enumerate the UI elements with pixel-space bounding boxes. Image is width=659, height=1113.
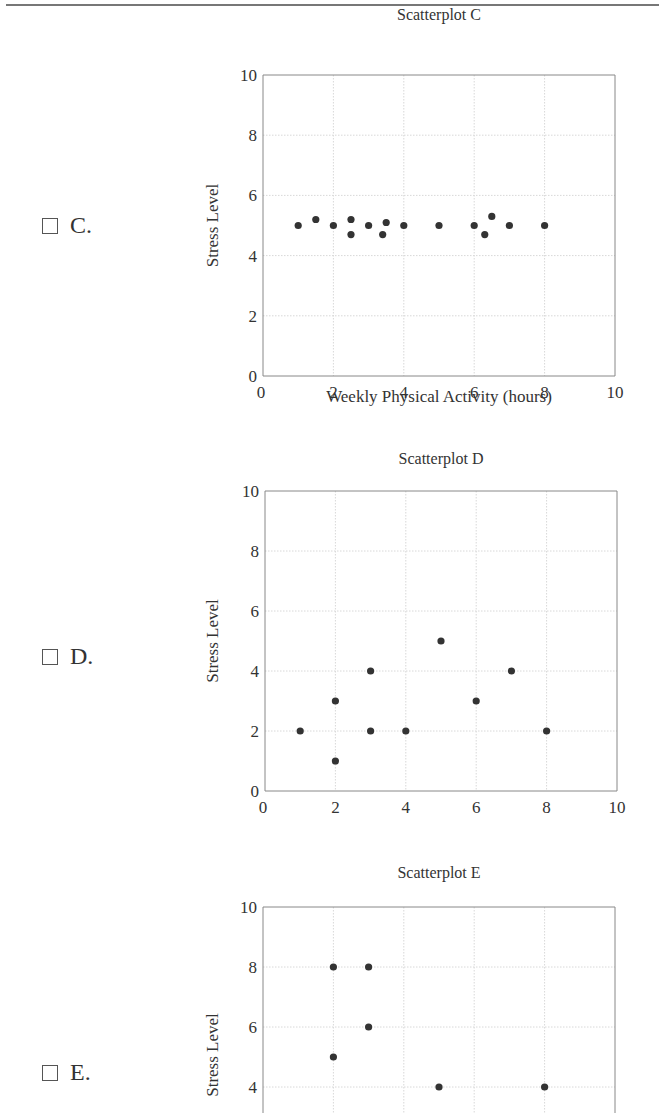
data-point: [541, 1083, 548, 1090]
y-axis-label: Stress Level: [203, 1013, 222, 1097]
data-point: [365, 963, 372, 970]
data-point: [330, 1053, 337, 1060]
data-point: [435, 1083, 442, 1090]
svg-text:10: 10: [240, 898, 257, 917]
svg-text:8: 8: [249, 958, 258, 977]
data-point: [330, 963, 337, 970]
svg-text:4: 4: [249, 1078, 258, 1097]
chart-title: Scatterplot E: [397, 864, 480, 882]
scatterplot-e: Scatterplot E46810Stress Level: [0, 0, 659, 1113]
data-point: [365, 1023, 372, 1030]
svg-text:6: 6: [249, 1018, 258, 1037]
